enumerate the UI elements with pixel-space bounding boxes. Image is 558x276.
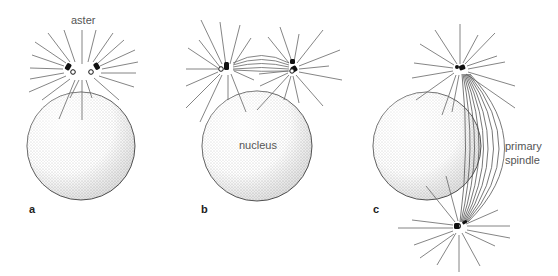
panel-b: [186, 20, 342, 201]
mitosis-diagram: [0, 0, 558, 276]
aster-label: aster: [71, 14, 95, 26]
panel-label-b: b: [201, 203, 208, 215]
spindle-label: spindle: [505, 154, 540, 166]
centrioles-a: [64, 62, 100, 74]
panel-c: [373, 24, 515, 272]
spindle-b: [233, 56, 289, 72]
primary-label: primary: [505, 140, 542, 152]
nucleus-label: nucleus: [239, 139, 277, 151]
nucleus-a: [27, 92, 135, 200]
panel-a: [27, 30, 138, 200]
panel-label-c: c: [373, 203, 379, 215]
panel-label-a: a: [29, 203, 35, 215]
